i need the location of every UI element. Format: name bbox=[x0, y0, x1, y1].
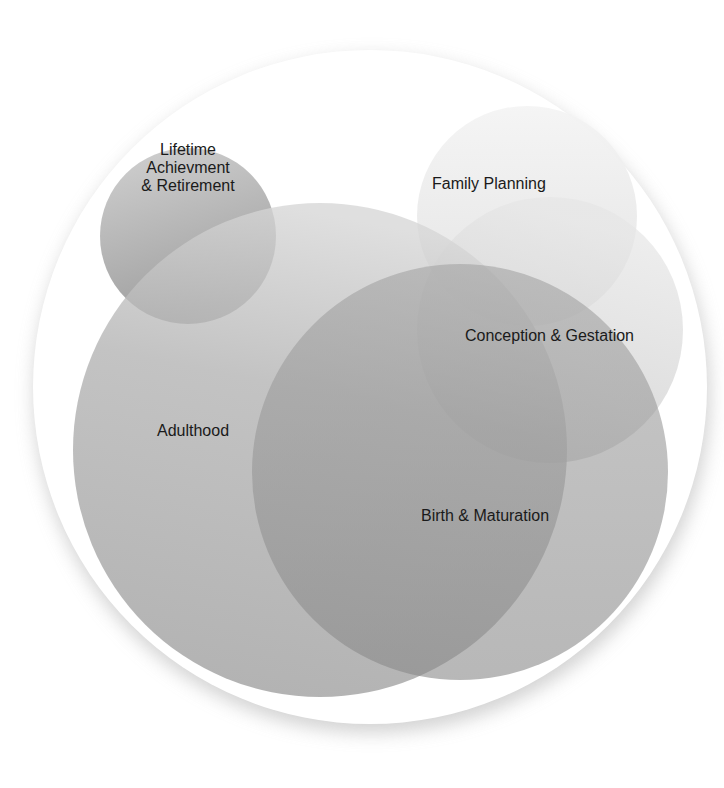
label-birth-maturation: Birth & Maturation bbox=[421, 507, 549, 525]
label-lifetime-line-2: Achievment bbox=[118, 159, 258, 177]
diagram-canvas bbox=[0, 0, 724, 788]
life-cycle-diagram: Lifetime Achievment & Retirement Family … bbox=[0, 0, 724, 788]
label-adulthood: Adulthood bbox=[157, 422, 229, 440]
label-lifetime-achievement: Lifetime Achievment & Retirement bbox=[118, 141, 258, 195]
label-conception-gestation: Conception & Gestation bbox=[465, 327, 634, 345]
label-lifetime-line-1: Lifetime bbox=[118, 141, 258, 159]
label-lifetime-line-3: & Retirement bbox=[118, 177, 258, 195]
label-family-planning: Family Planning bbox=[432, 175, 546, 193]
